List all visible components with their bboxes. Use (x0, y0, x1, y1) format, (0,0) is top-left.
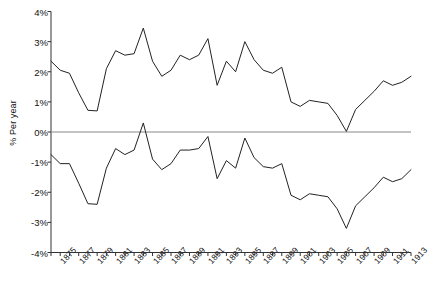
chart-container: % Per year 4%3%2%1%0%-1%-2%-3%-4% 187518… (0, 0, 432, 293)
plot-area (0, 0, 432, 293)
series-line-upper (51, 28, 411, 131)
axis-lines (51, 12, 411, 253)
x-axis-ticks (51, 253, 411, 257)
y-axis-ticks (48, 12, 52, 253)
data-series-group (51, 28, 411, 228)
series-line-lower (51, 123, 411, 228)
